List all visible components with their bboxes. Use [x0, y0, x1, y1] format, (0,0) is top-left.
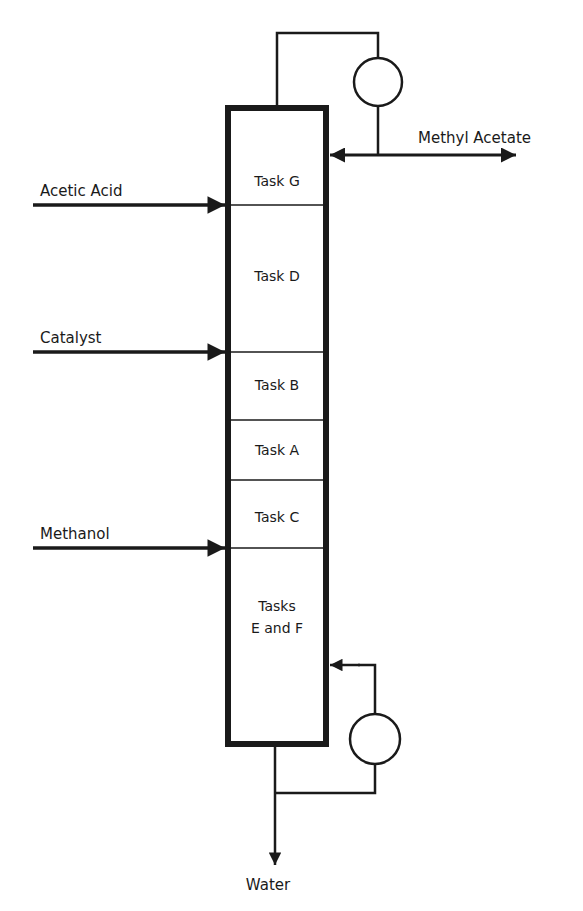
feed-catalyst: Catalyst [33, 329, 225, 352]
section-label-task-c: Task C [254, 509, 300, 525]
reboiler-return-line [358, 665, 375, 714]
reboiler-feed-line [275, 764, 375, 793]
section-label-task-d: Task D [253, 268, 299, 284]
condenser-circle [354, 58, 402, 106]
feed-acetic-acid: Acetic Acid [33, 182, 225, 205]
column-shell [228, 108, 326, 744]
feed-label-acetic-acid: Acetic Acid [40, 182, 122, 200]
section-label-tasks-ef-line1: Tasks [257, 598, 296, 614]
product-label-methyl-acetate: Methyl Acetate [418, 129, 531, 147]
section-label-task-g: Task G [253, 173, 300, 189]
distillation-diagram: Task G Task D Task B Task A Task C Tasks… [0, 0, 583, 911]
feed-label-catalyst: Catalyst [40, 329, 102, 347]
feed-methanol: Methanol [33, 525, 225, 548]
feed-label-methanol: Methanol [40, 525, 110, 543]
section-label-task-b: Task B [254, 377, 299, 393]
section-label-tasks-ef-line2: E and F [251, 620, 303, 636]
section-label-task-a: Task A [254, 442, 300, 458]
column: Task G Task D Task B Task A Task C Tasks… [228, 108, 326, 744]
reboiler-circle [350, 714, 400, 764]
product-label-water: Water [246, 876, 291, 894]
